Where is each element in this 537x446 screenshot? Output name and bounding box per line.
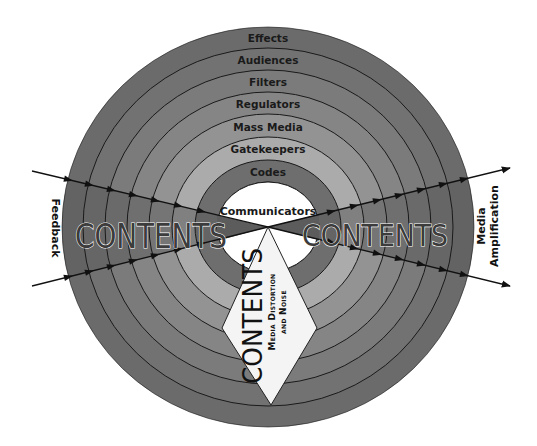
bottom-contents-text: CONTENTS <box>238 248 268 384</box>
ring-label-filters: Filters <box>249 76 287 88</box>
communication-model-diagram: EffectsAudiencesFiltersRegulatorsMass Me… <box>0 0 537 446</box>
feedback-label: Feedback <box>49 199 62 259</box>
communicators-label: Communicators <box>220 205 317 218</box>
ring-label-mass-media: Mass Media <box>233 121 302 133</box>
media-distortion-text: Media Distortion <box>267 274 277 351</box>
amplification-label: Amplification <box>488 185 501 267</box>
left-contents-text: CONTENTS <box>75 216 227 256</box>
media-label: Media <box>475 207 488 244</box>
ring-label-gatekeepers: Gatekeepers <box>231 143 306 155</box>
ring-label-codes: Codes <box>250 166 286 178</box>
ring-label-regulators: Regulators <box>236 98 301 110</box>
ring-label-audiences: Audiences <box>238 54 299 66</box>
right-contents-text: CONTENTS <box>302 218 448 253</box>
bottom-contents-group: CONTENTS <box>238 248 268 384</box>
and-noise-text: and Noise <box>278 290 288 334</box>
feedback-label-group: Feedback <box>49 199 62 259</box>
media-amplification-label-group: Media Amplification <box>475 185 501 267</box>
ring-label-effects: Effects <box>248 32 288 44</box>
